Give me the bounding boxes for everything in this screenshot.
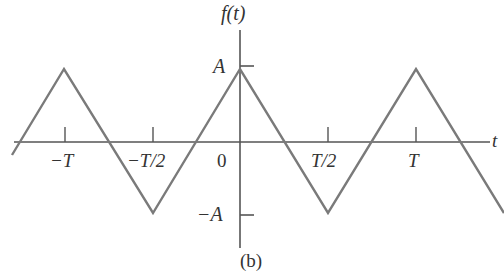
- triangle-wave-plot: [0, 0, 504, 280]
- x-tick-label-zero: 0: [217, 150, 227, 172]
- triangle-wave-line: [12, 69, 504, 213]
- y-axis-label: f(t): [221, 2, 245, 25]
- x-tick-label-half-t: T/2: [311, 150, 336, 172]
- x-tick-label-t: T: [408, 150, 419, 172]
- y-tick-label-neg-a: −A: [197, 203, 223, 226]
- figure-caption: (b): [240, 250, 262, 272]
- y-tick-label-a: A: [213, 55, 225, 78]
- x-axis-label: t: [492, 130, 497, 152]
- x-tick-label-neg-t: −T: [50, 150, 73, 172]
- x-tick-label-neg-half-t: −T/2: [127, 150, 165, 172]
